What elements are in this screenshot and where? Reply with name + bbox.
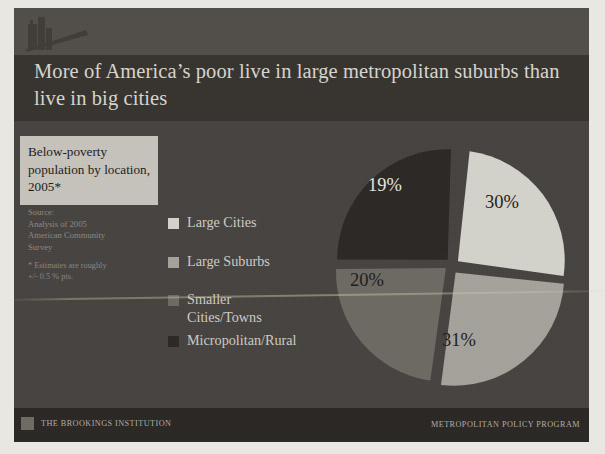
- legend-swatch-icon: [168, 218, 179, 229]
- legend-item-label: Micropolitan/Rural: [187, 332, 297, 350]
- legend-item-label: Large Cities: [187, 214, 256, 232]
- slide-canvas: More of America’s poor live in large met…: [14, 8, 589, 442]
- legend-swatch-icon: [168, 257, 179, 268]
- scanned-page: More of America’s poor live in large met…: [0, 0, 605, 454]
- slide-body: Below-poverty population by location, 20…: [14, 121, 589, 408]
- legend-swatch-icon: [168, 336, 179, 347]
- pie-chart: 30% 31% 20% 19%: [330, 130, 582, 392]
- legend-item-label: Smaller Cities/Towns: [187, 291, 262, 326]
- legend-item-label: Large Suburbs: [187, 253, 270, 271]
- page-title: More of America’s poor live in large met…: [34, 58, 580, 112]
- pie-slice-large-cities[interactable]: [458, 151, 565, 276]
- caption-box: Below-poverty population by location, 20…: [20, 136, 158, 205]
- legend-swatch-icon: [168, 295, 179, 306]
- pie-chart-svg: [330, 130, 582, 392]
- footer-left-label: THE BROOKINGS INSTITUTION: [41, 419, 171, 428]
- brookings-tower-icon: [20, 14, 94, 52]
- footnote-note: * Estimates are roughly +/- 0.5 % pts.: [28, 260, 168, 283]
- source-note: Source: Analysis of 2005 American Commun…: [28, 207, 160, 253]
- header-strip: [14, 8, 589, 55]
- footer-right-label: METROPOLITAN POLICY PROGRAM: [431, 420, 580, 429]
- pie-slice-smaller-cities-towns[interactable]: [336, 268, 446, 381]
- pie-slice-micropolitan-rural[interactable]: [337, 149, 451, 259]
- brookings-square-icon: [21, 417, 34, 430]
- footer-bar: THE BROOKINGS INSTITUTION METROPOLITAN P…: [14, 408, 589, 442]
- pie-slice-large-suburbs[interactable]: [441, 273, 564, 386]
- footer-brand: THE BROOKINGS INSTITUTION: [21, 417, 171, 430]
